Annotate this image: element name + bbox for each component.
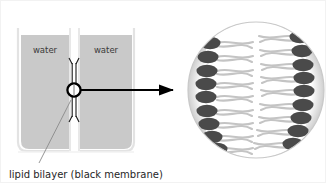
water-label-right: water bbox=[94, 45, 119, 55]
lipid-head bbox=[291, 112, 312, 124]
caption-label: lipid bilayer (black membrane) bbox=[9, 169, 163, 180]
lipid-head bbox=[196, 78, 217, 90]
detail-clipped-content bbox=[196, 19, 315, 161]
bilayer-detail-view bbox=[188, 19, 324, 161]
lipid-head bbox=[198, 51, 219, 63]
lipid-head bbox=[283, 138, 304, 150]
lipid-head bbox=[207, 143, 228, 155]
lipid-head bbox=[294, 85, 315, 97]
figure-canvas: water water lipid bilayer (black membran… bbox=[1, 1, 326, 183]
lipid-head bbox=[294, 72, 315, 84]
lipid-head bbox=[196, 91, 217, 103]
water-label-left: water bbox=[33, 45, 58, 55]
lipid-head bbox=[197, 65, 218, 77]
lipid-head bbox=[199, 118, 220, 130]
lipid-head bbox=[292, 45, 313, 57]
lipid-head bbox=[293, 99, 314, 111]
lipid-head bbox=[197, 105, 218, 117]
lipid-head bbox=[293, 59, 314, 71]
lipid-bilayer-figure: water water lipid bilayer (black membran… bbox=[0, 0, 326, 183]
lipid-head bbox=[288, 125, 309, 137]
